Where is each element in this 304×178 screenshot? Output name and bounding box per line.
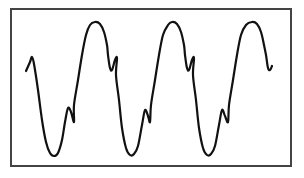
- waveform-plot: [0, 0, 304, 178]
- waveform-line: [26, 22, 272, 156]
